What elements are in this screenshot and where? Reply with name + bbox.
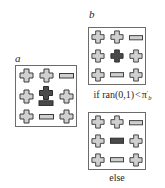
lattice-cell-centre	[108, 47, 127, 66]
lattice-cell	[126, 28, 145, 47]
lattice-cell	[89, 132, 108, 151]
cross-icon	[91, 115, 105, 129]
lattice-cell	[56, 86, 76, 107]
dash-icon	[110, 70, 124, 79]
panel-b-top-caption: if ran(0,1)<π′b	[80, 89, 165, 100]
lattice-cell	[89, 28, 108, 47]
dash-icon	[39, 112, 54, 121]
lattice-cell	[89, 150, 108, 169]
dash-icon	[129, 33, 143, 42]
panel-b-bottom-lattice	[88, 112, 146, 170]
lattice-cell	[16, 66, 36, 86]
lattice-cell-centre	[108, 132, 127, 151]
lattice-cell	[126, 150, 145, 169]
cross-icon	[91, 49, 105, 63]
panel-b-bottom-caption: else	[88, 172, 146, 183]
lattice-cell	[108, 65, 127, 84]
lattice-cell	[126, 113, 145, 132]
lattice-cell	[89, 65, 108, 84]
panel-b-top-lattice	[88, 27, 146, 85]
lattice-cell	[89, 47, 108, 66]
panel-a-lattice	[15, 65, 77, 127]
pi-subscript: b	[148, 94, 151, 101]
dash-highlight-icon	[110, 136, 124, 145]
lattice-cell	[126, 47, 145, 66]
caption-prefix: if ran(0,1)	[94, 89, 135, 100]
dash-icon	[59, 71, 74, 80]
lattice-cell	[126, 65, 145, 84]
dash-icon	[129, 118, 143, 127]
cross-highlight-icon	[110, 49, 124, 63]
cross-icon	[91, 68, 105, 82]
dash-icon	[110, 155, 124, 164]
cross-dash-pair-icon	[38, 86, 54, 107]
lattice-cell	[108, 28, 127, 47]
lattice-cell	[89, 113, 108, 132]
cross-icon	[91, 134, 105, 148]
cross-icon	[110, 30, 124, 44]
lattice-cell	[126, 132, 145, 151]
lattice-cell	[108, 113, 127, 132]
lattice-cell	[36, 66, 56, 86]
caption-operator: <	[134, 89, 142, 100]
cross-icon	[91, 30, 105, 44]
lattice-cell	[108, 150, 127, 169]
cross-icon	[39, 68, 54, 83]
cross-icon	[110, 115, 124, 129]
cross-icon	[91, 153, 105, 167]
cross-icon	[129, 153, 143, 167]
lattice-cell-centre	[36, 86, 56, 107]
cross-icon	[59, 109, 74, 124]
cross-icon	[19, 89, 34, 104]
lattice-transition-figure: a	[0, 0, 165, 188]
cross-icon	[129, 49, 143, 63]
lattice-cell	[56, 66, 76, 86]
panel-a-label: a	[15, 53, 21, 64]
lattice-cell	[16, 107, 36, 127]
lattice-cell	[16, 86, 36, 107]
panel-b-label: b	[89, 9, 95, 20]
lattice-cell	[56, 107, 76, 127]
cross-icon	[59, 89, 74, 104]
cross-icon	[19, 68, 34, 83]
lattice-cell	[36, 107, 56, 127]
cross-icon	[19, 109, 34, 124]
cross-icon	[129, 68, 143, 82]
cross-icon	[129, 134, 143, 148]
